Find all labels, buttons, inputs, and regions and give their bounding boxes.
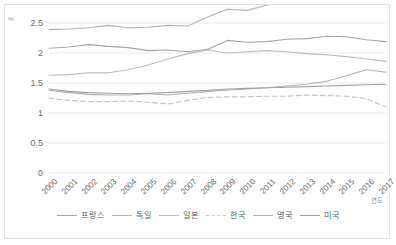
legend-item-일본[interactable]: 일본	[159, 211, 199, 220]
legend-line-icon	[253, 215, 273, 216]
legend-line-icon	[159, 215, 179, 216]
legend-line-icon	[112, 215, 132, 216]
plot-svg	[5, 5, 391, 185]
series-line-0	[49, 36, 386, 52]
chart-legend: 프랑스독일일본한국영국미국	[5, 211, 391, 220]
legend-label: 일본	[183, 211, 199, 220]
legend-label: 영국	[277, 211, 293, 220]
legend-line-icon	[206, 215, 226, 216]
legend-label: 프랑스	[81, 211, 105, 220]
y-tick-label: 1.5	[13, 79, 43, 88]
y-tick-label: 2	[13, 49, 43, 58]
y-tick-label: 1	[13, 109, 43, 118]
series-line-1	[49, 5, 386, 30]
x-axis-title: 연도	[371, 197, 383, 204]
legend-item-프랑스[interactable]: 프랑스	[57, 211, 105, 220]
legend-label: 독일	[136, 211, 152, 220]
series-line-3	[49, 95, 386, 107]
y-tick-label: 2.5	[13, 19, 43, 28]
legend-label: 미국	[324, 211, 340, 220]
legend-item-한국[interactable]: 한국	[206, 211, 246, 220]
legend-line-icon	[300, 215, 320, 216]
legend-item-영국[interactable]: 영국	[253, 211, 293, 220]
series-line-5	[49, 84, 386, 94]
y-tick-label: 0	[13, 169, 43, 178]
series-line-2	[49, 50, 386, 75]
chart-card: % 2.521.510.50 2000200120022003200420052…	[4, 4, 390, 239]
legend-label: 한국	[230, 211, 246, 220]
series-line-4	[49, 70, 386, 95]
legend-line-icon	[57, 215, 77, 216]
plot-area	[5, 5, 391, 185]
y-tick-label: 0.5	[13, 139, 43, 148]
legend-item-미국[interactable]: 미국	[300, 211, 340, 220]
legend-item-독일[interactable]: 독일	[112, 211, 152, 220]
